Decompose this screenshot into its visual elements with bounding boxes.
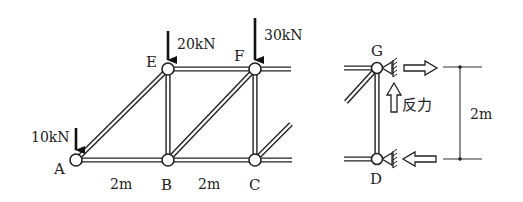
reaction-arrow-right-icon (404, 61, 437, 75)
joint-c (249, 154, 261, 166)
joint-a (70, 154, 82, 166)
detail-members (344, 68, 377, 159)
load-label-20kn: 20kN (177, 36, 216, 52)
load-label-30kn: 30kN (264, 27, 303, 43)
joint-label-e: E (146, 53, 157, 71)
joint-label-a: A (53, 160, 65, 178)
height-dimension-label: 2m (470, 106, 492, 122)
support-d-icon (382, 149, 397, 168)
joint-label-g: G (371, 42, 383, 60)
joint-g (372, 63, 383, 74)
dimension-label-ab: 2m (110, 176, 132, 192)
joint-label-d: D (370, 170, 382, 188)
truss-members (76, 69, 292, 160)
joint-e (162, 63, 174, 75)
joint-label-c: C (249, 176, 260, 194)
reaction-label: 反力 (402, 96, 432, 114)
joint-label-f: F (234, 47, 244, 65)
support-g-icon (382, 58, 397, 77)
load-label-10kn: 10kN (31, 129, 70, 145)
truss-diagram: A B C E F 10kN 20kN 30kN 2m 2m 反力 G (0, 0, 523, 202)
joint-label-b: B (161, 176, 172, 194)
reaction-arrow-left-icon (403, 152, 436, 166)
joint-f (249, 63, 261, 75)
joint-d (372, 154, 383, 165)
dimension-label-bc: 2m (198, 176, 220, 192)
reaction-arrow-up-icon (387, 83, 401, 112)
joint-b (162, 154, 174, 166)
